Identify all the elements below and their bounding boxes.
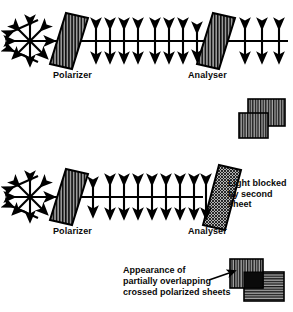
caption-line-1: Appearance of: [123, 265, 231, 276]
parallel-sheets-inset: [239, 99, 285, 138]
caption-line-2: partially overlapping: [123, 276, 231, 287]
panel-parallel: [9, 13, 288, 69]
note-light-blocked-line-2: by second: [228, 189, 287, 200]
label-polarizer-parallel: Polarizer: [53, 70, 92, 80]
caption-crossed-sheets: Appearance of partially overlapping cros…: [123, 265, 231, 298]
label-analyser-crossed: Analyser: [188, 226, 227, 236]
panel-crossed: [9, 165, 241, 230]
inset-overlap-black: [244, 272, 263, 288]
note-light-blocked-line-3: sheet: [228, 199, 287, 210]
inset-sheet-b-vertical: [239, 113, 268, 138]
note-light-blocked-line-1: Light blocked: [228, 178, 287, 189]
label-analyser-parallel: Analyser: [188, 70, 227, 80]
label-polarizer-crossed: Polarizer: [53, 226, 92, 236]
note-light-blocked: Light blocked by second sheet: [228, 178, 287, 210]
caption-line-3: crossed polarized sheets: [123, 287, 231, 298]
